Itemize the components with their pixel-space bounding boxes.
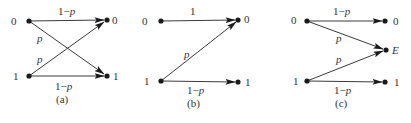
node-c-input-1 [304,78,309,83]
edge-a-1-to-0 [29,22,104,76]
label-c-edge-0-E: p [335,32,342,44]
edge-b-1-to-1 [161,81,235,82]
channel-diagrams: 0 1 0 1 1−p p p 1−p (a) 0 1 0 1 1 p 1−p … [0,0,411,123]
label-a-output-0: 0 [112,14,118,26]
node-c-output-1 [382,79,387,84]
node-c-input-0 [304,18,309,23]
edge-c-1-to-1 [307,81,382,82]
label-b-edge-0-0: 1 [190,5,196,17]
node-a-input-0 [26,18,31,23]
label-c-input-1: 1 [293,75,299,87]
label-b-input-1: 1 [144,75,150,87]
edge-b-0-to-0 [161,20,235,21]
edge-a-0-to-1 [29,21,104,74]
label-c-output-E: E [391,44,399,56]
caption-c: (c) [335,97,348,110]
edge-c-1-to-E [307,51,383,81]
node-b-input-1 [158,78,163,83]
label-a-edge-1-0: p [36,53,43,65]
label-a-edge-0-0: 1−p [58,5,76,17]
node-a-output-0 [104,17,109,22]
node-b-input-0 [158,18,163,23]
label-c-output-1: 1 [394,76,400,88]
label-c-input-0: 0 [291,14,297,26]
edge-b-1-to-0 [161,22,236,81]
label-a-edge-1-1: 1−p [55,80,73,92]
label-a-input-0: 0 [11,15,17,27]
node-c-output-0 [382,18,387,23]
edge-c-0-to-E [307,21,383,49]
label-a-input-1: 1 [13,70,19,82]
panel-b-z-channel: 0 1 0 1 1 p 1−p (b) [142,5,251,110]
label-a-edge-0-1: p [36,32,43,44]
caption-b: (b) [187,97,200,110]
label-c-edge-1-E: p [335,53,342,65]
node-c-output-E [383,47,388,52]
label-c-output-0: 0 [393,15,399,27]
label-c-edge-1-1: 1−p [334,84,352,96]
label-c-edge-0-0: 1−p [333,5,351,17]
panel-c-binary-erasure-channel: 0 1 0 E 1 1−p p p 1−p (c) [291,5,400,110]
label-b-output-0: 0 [244,13,250,25]
node-a-output-1 [104,73,109,78]
label-b-edge-1-0: p [183,48,190,60]
node-b-output-1 [235,79,240,84]
node-a-input-1 [26,73,31,78]
label-b-output-1: 1 [245,76,251,88]
label-b-input-0: 0 [142,15,148,27]
edge-a-0-to-0 [29,20,104,21]
label-b-edge-1-1: 1−p [187,84,205,96]
label-a-output-1: 1 [113,70,119,82]
panel-a-binary-symmetric-channel: 0 1 0 1 1−p p p 1−p (a) [11,5,119,106]
caption-a: (a) [56,93,69,106]
node-b-output-0 [235,17,240,22]
